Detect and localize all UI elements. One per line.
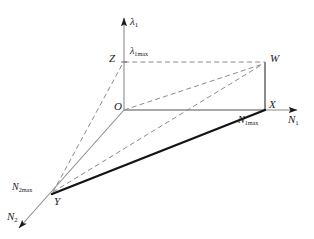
- value-label-n1max: N1max: [238, 115, 258, 125]
- point-label-X: X: [269, 99, 276, 110]
- three-axis-diagram: λ1 N1 N2 O Z W X Y λ1max N1max N2max: [0, 0, 314, 239]
- edge-Y-X: [52, 110, 265, 194]
- point-label-Y: Y: [54, 196, 60, 207]
- edge-Y-Z: [53, 63, 123, 192]
- axis-label-n1: N1: [288, 114, 299, 125]
- point-label-W: W: [270, 53, 279, 64]
- point-label-Z: Z: [109, 53, 115, 64]
- diagram-canvas: [0, 0, 314, 239]
- value-label-lambda1max: λ1max: [130, 46, 148, 56]
- axis-label-n2: N2: [7, 211, 18, 222]
- axis-label-lambda1: λ1: [130, 16, 138, 27]
- edge-O-W: [124, 64, 263, 110]
- edge-Y-W: [53, 64, 263, 192]
- axis-n2: [19, 110, 124, 228]
- axis-n2-line: [19, 110, 124, 228]
- point-label-O: O: [114, 101, 122, 112]
- value-label-n2max: N2max: [12, 182, 32, 192]
